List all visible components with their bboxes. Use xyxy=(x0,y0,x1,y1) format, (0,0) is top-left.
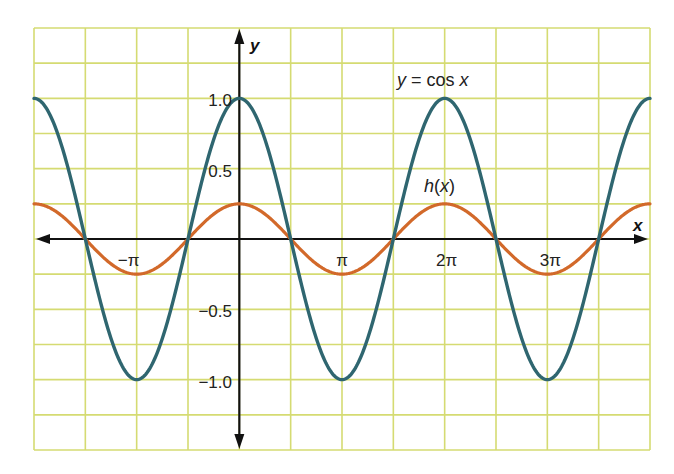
y-tick-label: 0.5 xyxy=(208,162,232,181)
x-tick-label: −π xyxy=(118,251,140,270)
y-axis-up-arrow-icon xyxy=(234,29,244,44)
x-axis-right-arrow-icon xyxy=(634,234,648,244)
y-axis-down-arrow-icon xyxy=(234,434,244,449)
cos-label-eq: = cos xyxy=(406,70,460,90)
x-tick-label: 2π xyxy=(436,251,457,270)
h-label-h: h xyxy=(424,176,434,196)
x-axis-title: x xyxy=(632,216,644,235)
y-tick-label: 1.0 xyxy=(208,91,232,110)
cos-label-x: x xyxy=(459,70,470,90)
y-tick-label: −1.0 xyxy=(198,373,232,392)
x-tick-label: 3π xyxy=(540,251,561,270)
chart: −ππ2π3π1.00.5−0.5−1.0 y x y = cos x h(x) xyxy=(0,0,674,474)
h-curve-label: h(x) xyxy=(424,176,455,196)
y-tick-label: −0.5 xyxy=(198,302,232,321)
x-axis-left-arrow-icon xyxy=(36,234,50,244)
x-tick-label: π xyxy=(336,251,348,270)
h-label-close: ) xyxy=(449,176,455,196)
cos-curve-label: y = cos x xyxy=(395,70,470,90)
y-axis-title: y xyxy=(249,36,261,55)
chart-canvas: −ππ2π3π1.00.5−0.5−1.0 y x y = cos x h(x) xyxy=(0,0,674,474)
